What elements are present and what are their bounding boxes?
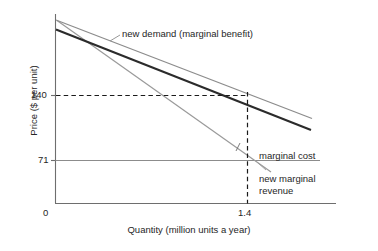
economics-chart: 140 71 0 1.4 Price ($ per unit) Quantity… [0,0,378,251]
y-axis-title: Price ($ per unit) [28,46,39,156]
marginal-cost-label: marginal cost [259,150,316,161]
new-marginal-revenue-label-line2: revenue [259,185,316,197]
x-tick-label-0: 0 [43,207,48,218]
new-demand-label: new demand (marginal benefit) [122,28,253,39]
new-marginal-revenue-label-line1: new marginal [259,173,316,185]
y-tick-label-71: 71 [38,154,49,165]
original-demand-line [56,30,311,131]
x-axis-title: Quantity (million units a year) [0,224,378,235]
x-tick-label-1-4: 1.4 [238,207,251,218]
new-marginal-revenue-label: new marginal revenue [259,173,316,197]
new-marginal-revenue-leader-tick [258,163,266,170]
new-demand-leader-tick [110,35,120,41]
